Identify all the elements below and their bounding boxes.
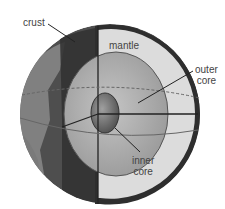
label-crust: crust <box>23 17 45 28</box>
earth-cutaway-diagram <box>0 0 225 209</box>
inner-core-layer <box>91 93 119 133</box>
label-inner-core-line1: inner <box>132 155 154 166</box>
label-outer-core-line2: core <box>195 75 218 86</box>
label-mantle: mantle <box>109 40 139 51</box>
label-outer-core-line1: outer <box>195 64 218 75</box>
label-outer-core: outer core <box>195 64 218 86</box>
label-inner-core-line2: core <box>132 166 154 177</box>
label-inner-core: inner core <box>132 155 154 177</box>
